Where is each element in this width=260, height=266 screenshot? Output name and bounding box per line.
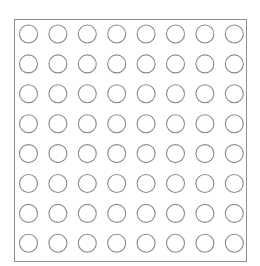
grid-circle-r3-c3 [78, 85, 96, 103]
grid-circle-r5-c5 [137, 145, 155, 163]
grid-circle-r7-c8 [225, 204, 243, 222]
grid-circle-r5-c4 [108, 145, 126, 163]
grid-circle-r4-c3 [78, 115, 96, 133]
grid-circle-r1-c5 [137, 25, 155, 43]
grid-circle-r2-c1 [20, 55, 38, 73]
grid-circle-r3-c8 [225, 85, 243, 103]
circle-grid [0, 0, 260, 266]
grid-circle-r5-c6 [167, 145, 185, 163]
circle-grid-diagram [0, 0, 260, 266]
grid-circle-r2-c8 [225, 55, 243, 73]
grid-circle-r4-c4 [108, 115, 126, 133]
grid-circle-r7-c2 [49, 204, 67, 222]
grid-circle-r1-c1 [20, 25, 38, 43]
grid-circle-r3-c6 [167, 85, 185, 103]
grid-circle-r5-c3 [78, 145, 96, 163]
grid-circle-r2-c5 [137, 55, 155, 73]
grid-circle-r1-c4 [108, 25, 126, 43]
grid-circle-r3-c1 [20, 85, 38, 103]
grid-circle-r4-c1 [20, 115, 38, 133]
grid-circle-r8-c8 [225, 234, 243, 252]
grid-circle-r8-c2 [49, 234, 67, 252]
grid-circle-r2-c4 [108, 55, 126, 73]
grid-circle-r6-c6 [167, 175, 185, 193]
grid-circle-r1-c8 [225, 25, 243, 43]
grid-circle-r8-c4 [108, 234, 126, 252]
grid-circle-r6-c1 [20, 175, 38, 193]
grid-circle-r3-c7 [196, 85, 214, 103]
grid-circle-r2-c6 [167, 55, 185, 73]
grid-circle-r2-c7 [196, 55, 214, 73]
grid-circle-r1-c2 [49, 25, 67, 43]
grid-circle-r8-c6 [167, 234, 185, 252]
grid-circle-r1-c6 [167, 25, 185, 43]
grid-circle-r6-c3 [78, 175, 96, 193]
grid-circle-r6-c4 [108, 175, 126, 193]
grid-circle-r8-c3 [78, 234, 96, 252]
grid-circle-r5-c2 [49, 145, 67, 163]
grid-circle-r7-c5 [137, 204, 155, 222]
grid-circle-r5-c7 [196, 145, 214, 163]
grid-circle-r1-c7 [196, 25, 214, 43]
grid-circle-r2-c2 [49, 55, 67, 73]
grid-circle-r2-c3 [78, 55, 96, 73]
grid-circle-r3-c2 [49, 85, 67, 103]
grid-circle-r7-c3 [78, 204, 96, 222]
grid-circle-r7-c7 [196, 204, 214, 222]
grid-circle-r4-c5 [137, 115, 155, 133]
grid-circle-r6-c5 [137, 175, 155, 193]
grid-circle-r4-c2 [49, 115, 67, 133]
grid-circle-r7-c4 [108, 204, 126, 222]
grid-circle-r7-c1 [20, 204, 38, 222]
grid-circle-r5-c1 [20, 145, 38, 163]
grid-circle-r1-c3 [78, 25, 96, 43]
grid-circle-r5-c8 [225, 145, 243, 163]
grid-circle-r3-c5 [137, 85, 155, 103]
grid-circle-r6-c2 [49, 175, 67, 193]
grid-circle-r6-c7 [196, 175, 214, 193]
grid-circle-r4-c8 [225, 115, 243, 133]
grid-circle-r8-c5 [137, 234, 155, 252]
grid-circle-r6-c8 [225, 175, 243, 193]
grid-circle-r3-c4 [108, 85, 126, 103]
grid-circle-r4-c7 [196, 115, 214, 133]
grid-circle-r8-c7 [196, 234, 214, 252]
grid-circle-r4-c6 [167, 115, 185, 133]
grid-circle-r8-c1 [20, 234, 38, 252]
grid-circle-r7-c6 [167, 204, 185, 222]
